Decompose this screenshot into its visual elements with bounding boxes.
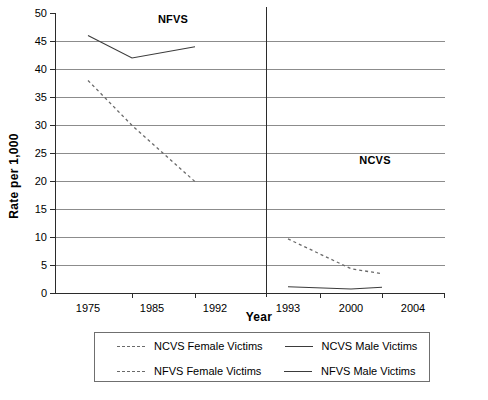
y-tick-label-10: 10 [35,232,47,243]
y-tick-label-15: 15 [35,204,47,215]
y-axis-title: Rate per 1,000 [2,96,26,256]
series-layer [55,13,445,294]
y-tick-label-0: 0 [41,288,47,299]
y-tick-label-5: 5 [41,260,47,271]
y-tick-label-35: 35 [35,92,47,103]
legend-item-nfvs-male: NFVS Male Victims [262,358,429,383]
legend-row: NFVS Female Victims NFVS Male Victims [95,358,429,383]
y-tick-label-40: 40 [35,64,47,75]
y-tick-label-30: 30 [35,120,47,131]
legend-item-nfvs-female: NFVS Female Victims [95,358,262,383]
legend-label: NCVS Female Victims [154,340,263,352]
legend-label: NCVS Male Victims [322,340,418,352]
legend-swatch-solid-icon [285,341,313,351]
x-axis-title: Year [0,310,488,324]
series-line-nfvs-female [88,80,195,181]
legend-swatch-dashed-icon [117,341,145,351]
series-line-ncvs-female [288,239,382,274]
series-line-ncvs-male [288,287,382,289]
legend-item-ncvs-female: NCVS Female Victims [95,333,263,358]
y-axis-title-text: Rate per 1,000 [7,133,21,219]
legend-swatch-solid-icon [284,366,312,376]
legend-label: NFVS Male Victims [321,365,416,377]
y-tick-label-50: 50 [35,8,47,19]
legend-swatch-dashed-icon [117,366,145,376]
y-tick-label-25: 25 [35,148,47,159]
series-line-nfvs-male [88,35,195,57]
y-tick-label-45: 45 [35,36,47,47]
legend-item-ncvs-male: NCVS Male Victims [263,333,429,358]
chart-figure: Rate per 1,000 50 45 40 35 30 25 20 15 1… [0,0,488,400]
x-axis-title-text: Year [246,310,273,324]
plot-area: 50 45 40 35 30 25 20 15 10 5 0 1975 1985… [55,13,445,294]
chart-legend: NCVS Female Victims NCVS Male Victims NF… [94,332,430,382]
y-tick-label-20: 20 [35,176,47,187]
legend-label: NFVS Female Victims [154,365,261,377]
legend-row: NCVS Female Victims NCVS Male Victims [95,333,429,358]
